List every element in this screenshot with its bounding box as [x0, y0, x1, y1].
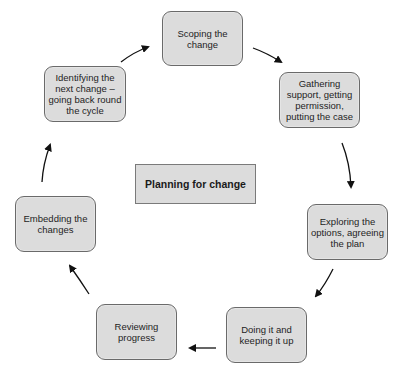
- arrow-reviewing-to-embedding: [70, 266, 89, 294]
- node-scoping: Scoping the change: [162, 11, 243, 66]
- node-label: Exploring the options, agreeing the plan: [311, 216, 384, 249]
- node-doing: Doing it and keeping it up: [226, 307, 307, 363]
- node-exploring: Exploring the options, agreeing the plan: [307, 204, 388, 260]
- arrow-scoping-to-gathering: [253, 48, 281, 62]
- arrow-gathering-to-exploring: [342, 143, 351, 187]
- diagram-title-text: Planning for change: [145, 178, 246, 190]
- node-label: Reviewing progress: [115, 321, 159, 343]
- node-label: Identifying the next change – going back…: [49, 72, 122, 116]
- planning-cycle-diagram: Scoping the change Gathering support, ge…: [0, 0, 399, 374]
- node-embedding: Embedding the changes: [15, 196, 96, 252]
- node-label: Doing it and keeping it up: [240, 324, 294, 346]
- arrow-exploring-to-doing: [316, 269, 333, 296]
- node-label: Scoping the change: [177, 28, 227, 50]
- node-gathering: Gathering support, getting permission, p…: [279, 72, 360, 128]
- arrow-embedding-to-identifying: [42, 145, 50, 182]
- node-label: Gathering support, getting permission, p…: [286, 78, 353, 122]
- arrow-identifying-to-scoping: [121, 47, 148, 62]
- node-identifying: Identifying the next change – going back…: [44, 66, 126, 122]
- node-label: Embedding the changes: [24, 213, 88, 235]
- node-reviewing: Reviewing progress: [96, 304, 177, 360]
- diagram-title: Planning for change: [135, 164, 256, 204]
